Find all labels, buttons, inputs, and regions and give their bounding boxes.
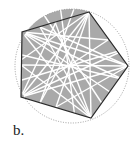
figure-label: b.	[13, 122, 24, 139]
